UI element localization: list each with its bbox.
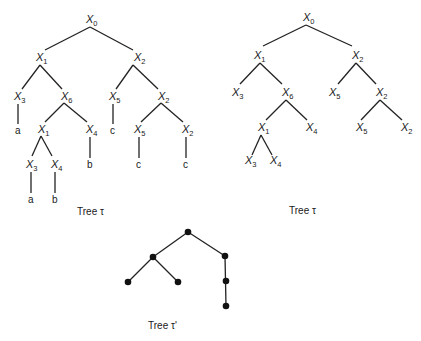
tree-node-dot xyxy=(223,303,230,310)
node-x2: X2 xyxy=(351,49,364,64)
node-x2: X2 xyxy=(375,86,388,101)
node-x6: X6 xyxy=(281,86,294,101)
left-tree-caption: Tree τ xyxy=(77,206,104,217)
leaf-a: a xyxy=(15,125,21,136)
leaf-c: c xyxy=(183,159,188,170)
node-x3: X3 xyxy=(13,90,26,105)
tree-diagrams: X0 X1 X2 X3 X6 X5 X2 X1 X4 X5 X2 X3 X4 a… xyxy=(0,0,421,341)
leaf-c: c xyxy=(110,125,115,136)
node-x5: X5 xyxy=(328,86,341,101)
node-x4: X4 xyxy=(85,123,98,138)
node-x2: X2 xyxy=(181,123,194,138)
node-x1: X1 xyxy=(37,123,50,138)
node-x5: X5 xyxy=(108,90,121,105)
leaf-b: b xyxy=(52,194,58,205)
tree-node-dot xyxy=(223,278,230,285)
tree-node-dot xyxy=(185,229,192,236)
bottom-tree-caption: Tree τ' xyxy=(148,320,177,331)
node-x1: X1 xyxy=(257,121,270,136)
node-x4: X4 xyxy=(50,158,63,173)
node-x0: X0 xyxy=(302,11,315,26)
node-x4: X4 xyxy=(269,154,282,169)
tree-node-dot xyxy=(150,254,157,261)
node-x0: X0 xyxy=(85,13,98,28)
node-x1: X1 xyxy=(253,49,266,64)
right-tree-caption: Tree τ xyxy=(289,205,316,216)
right-tree-nodes: X0 X1 X2 X3 X6 X5 X2 X1 X4 X5 X2 X3 X4 xyxy=(231,11,413,169)
left-tree-nodes: X0 X1 X2 X3 X6 X5 X2 X1 X4 X5 X2 X3 X4 xyxy=(13,13,194,173)
node-x3: X3 xyxy=(244,154,257,169)
leaf-b: b xyxy=(87,159,93,170)
node-x5: X5 xyxy=(355,121,368,136)
node-x2: X2 xyxy=(157,90,170,105)
leaf-c: c xyxy=(136,159,141,170)
node-x2: X2 xyxy=(400,121,413,136)
node-x4: X4 xyxy=(305,121,318,136)
node-x6: X6 xyxy=(60,90,73,105)
node-x1: X1 xyxy=(35,51,48,66)
tree-node-dot xyxy=(175,279,182,286)
node-x5: X5 xyxy=(133,123,146,138)
tree-node-dot xyxy=(125,279,132,286)
node-x2: X2 xyxy=(133,51,146,66)
tree-node-dot xyxy=(222,253,229,260)
node-x3: X3 xyxy=(231,86,244,101)
leaf-a: a xyxy=(28,194,34,205)
bottom-tree-edges xyxy=(128,232,226,306)
node-x3: X3 xyxy=(25,158,38,173)
